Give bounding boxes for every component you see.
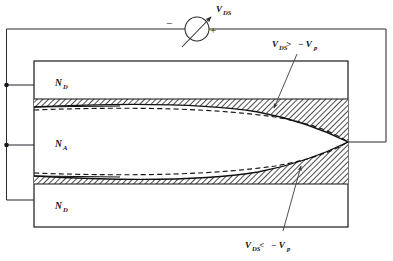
jfet-pinchoff-figure: − + V DS N D N A bbox=[0, 0, 393, 261]
bottom-gate-label-subscript: D bbox=[62, 206, 68, 213]
lower-annotation-value: − V bbox=[271, 240, 286, 250]
upper-annotation-value: − V bbox=[298, 39, 313, 49]
upper-annotation-value-subscript: p bbox=[313, 44, 318, 51]
device-cross-section: N D N A N D bbox=[34, 61, 348, 227]
top-gate-label-subscript: D bbox=[62, 83, 68, 90]
channel-label-subscript: A bbox=[62, 144, 68, 151]
lower-annotation-relation: < bbox=[259, 240, 264, 250]
plus-sign-label: + bbox=[210, 24, 216, 36]
channel-label: N bbox=[54, 139, 63, 149]
upper-annotation-relation: > bbox=[286, 39, 291, 49]
channel-node-dot bbox=[4, 143, 9, 148]
figure-canvas: − + V DS N D N A bbox=[0, 0, 393, 261]
upper-gate-node-dot bbox=[4, 83, 9, 88]
source-label: V bbox=[216, 4, 223, 14]
voltage-source-symbol: − + V DS bbox=[166, 4, 232, 47]
minus-sign-label: − bbox=[166, 17, 172, 29]
device-outline bbox=[34, 61, 348, 227]
source-circle bbox=[185, 17, 209, 41]
lower-annotation-value-subscript: p bbox=[286, 245, 291, 252]
lower-annotation-label: V bbox=[245, 240, 252, 250]
source-label-subscript: DS bbox=[222, 9, 232, 16]
upper-annotation-label: V bbox=[272, 39, 279, 49]
top-gate-label: N bbox=[54, 78, 63, 88]
bottom-gate-label: N bbox=[54, 201, 63, 211]
